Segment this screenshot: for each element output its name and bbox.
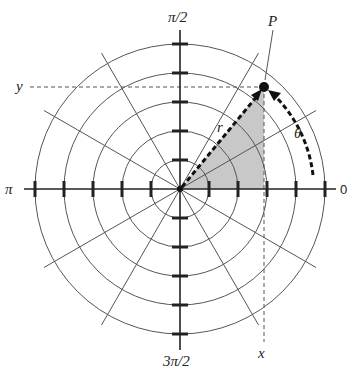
label-r: r [217,119,223,135]
label-theta: θ [294,125,302,141]
label-3pi-half: 3π/2 [162,353,190,369]
point-p-leader [265,30,273,80]
label-pi-half: π/2 [168,9,188,25]
label-p: P [267,13,277,29]
point-p [259,82,269,92]
label-y: y [14,78,23,94]
polar-diagram: 0 π/2 π 3π/2 P r θ x y [0,0,360,378]
label-pi: π [5,181,13,197]
origin [177,186,183,192]
label-x: x [257,345,265,361]
label-0: 0 [340,182,347,197]
